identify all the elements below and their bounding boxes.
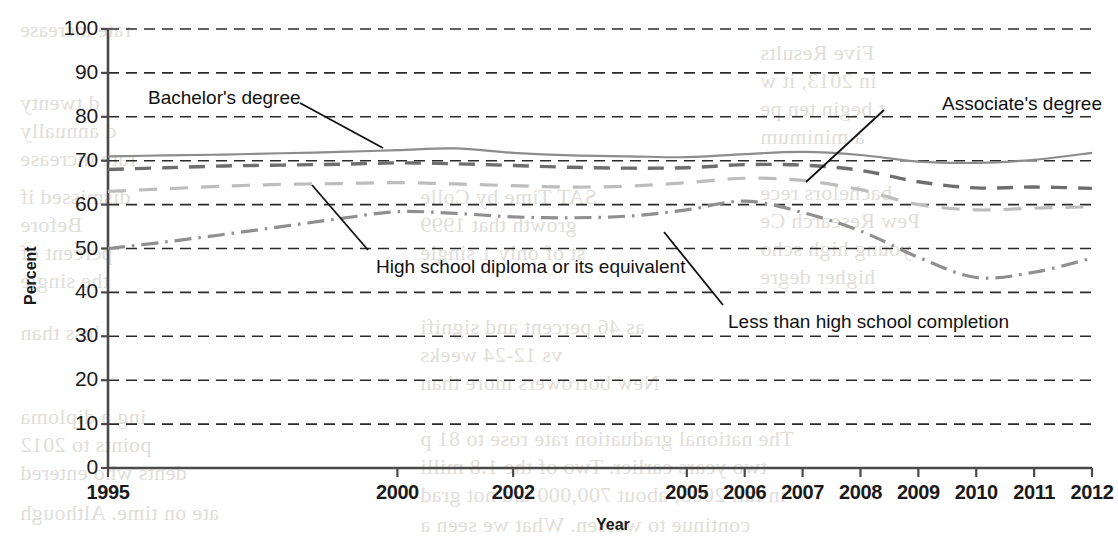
x-tick-label: 2000 [362,481,432,504]
x-tick-label: 1995 [73,481,143,504]
x-tick-label: 2002 [478,481,548,504]
annotation-bachelors-degree: Bachelor's degree [148,87,301,109]
annotation-associates-degree: Associate's degree [942,93,1102,115]
annotation-high-school-diploma: High school diploma or its equivalent [376,256,685,278]
x-tick-label: 2012 [1057,481,1118,504]
x-axis-title: Year [596,516,630,534]
annotation-less-than-high-school: Less than high school completion [728,311,1009,333]
